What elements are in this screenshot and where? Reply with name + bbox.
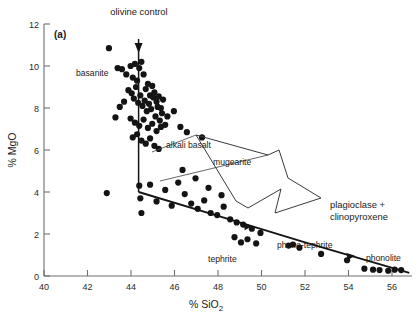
data-point <box>137 195 143 201</box>
data-point <box>201 197 207 203</box>
data-point <box>218 192 224 198</box>
data-point <box>117 104 123 110</box>
data-point <box>147 182 153 188</box>
scatter-points-group <box>104 45 405 274</box>
data-point <box>140 71 146 77</box>
data-point <box>162 187 168 193</box>
fractionation-block-arrow <box>196 135 321 213</box>
data-point <box>184 129 190 135</box>
data-point <box>171 108 177 114</box>
y-ticks-group: 12 10 8 6 4 2 0 <box>29 20 50 282</box>
data-point <box>119 66 125 72</box>
annotation-clinopyroxene-line2: clinopyroxene <box>330 211 388 222</box>
data-point <box>205 185 211 191</box>
data-point <box>149 121 155 127</box>
data-point <box>231 234 237 240</box>
x-tick-label-42: 42 <box>82 282 92 292</box>
x-tick-label-48: 48 <box>213 282 223 292</box>
data-point <box>175 179 181 185</box>
data-point <box>158 124 164 130</box>
data-point <box>159 110 165 116</box>
annotation-basanite: basanite <box>76 68 109 78</box>
data-point <box>164 113 170 119</box>
x-tick-label-56: 56 <box>387 282 397 292</box>
data-point <box>140 116 146 122</box>
data-point <box>361 266 367 272</box>
annotation-alkali-basalt: alkali basalt <box>166 140 212 150</box>
data-point <box>221 204 227 210</box>
x-tick-label-44: 44 <box>126 282 136 292</box>
axes-group <box>44 24 412 276</box>
x-tick-label-40: 40 <box>39 282 49 292</box>
data-point <box>238 239 244 245</box>
y-tick-label-0: 0 <box>34 272 39 282</box>
x-ticks-group: 40 42 44 46 48 50 52 54 56 <box>39 270 397 292</box>
annotation-plagioclase-line1: plagioclase + <box>330 199 386 210</box>
y-axis-title: % MgO <box>6 132 18 167</box>
annotation-tephrite: tephrite <box>208 254 237 264</box>
data-point <box>155 104 161 110</box>
data-point <box>147 135 153 141</box>
data-point <box>188 200 194 206</box>
data-point <box>138 210 144 216</box>
data-point <box>149 83 155 89</box>
x-tick-label-54: 54 <box>343 282 353 292</box>
annotations-group: olivine control basanite alkali basalt m… <box>76 6 401 264</box>
data-point <box>244 236 250 242</box>
x-tick-label-50: 50 <box>256 282 266 292</box>
data-point <box>179 167 185 173</box>
x-axis-title-subscript: 2 <box>219 304 224 312</box>
data-point <box>143 141 149 147</box>
y-tick-label-6: 6 <box>34 146 39 156</box>
data-point <box>153 198 159 204</box>
data-point <box>257 230 263 236</box>
data-point <box>385 268 391 274</box>
olivine-control-arrowhead <box>135 43 143 53</box>
data-point <box>376 267 382 273</box>
data-point <box>177 124 183 130</box>
data-point <box>106 45 112 51</box>
data-point <box>104 190 110 196</box>
data-point <box>370 267 376 273</box>
data-point <box>192 175 198 181</box>
y-tick-label-12: 12 <box>29 20 39 30</box>
data-point <box>150 94 156 100</box>
data-point <box>318 251 324 257</box>
y-tick-label-10: 10 <box>29 62 39 72</box>
data-point <box>160 97 166 103</box>
y-tick-label-8: 8 <box>34 104 39 114</box>
data-point <box>182 191 188 197</box>
annotation-mugearite: mugearite <box>213 157 251 167</box>
annotation-phonolite: phonolite <box>366 253 401 263</box>
data-point <box>123 71 129 77</box>
x-tick-label-46: 46 <box>169 282 179 292</box>
y-tick-label-4: 4 <box>34 188 39 198</box>
mgo-sio2-variation-diagram: 12 10 8 6 4 2 0 40 42 44 46 48 <box>0 0 420 312</box>
data-point <box>121 99 127 105</box>
annotation-olivine-control: olivine control <box>110 6 167 17</box>
x-tick-label-52: 52 <box>300 282 310 292</box>
x-axis-title-main: % SiO <box>189 298 219 310</box>
data-point <box>253 240 259 246</box>
data-point <box>148 106 154 112</box>
x-axis-title: % SiO2 <box>189 298 224 312</box>
data-point <box>112 114 118 120</box>
chart-canvas: 12 10 8 6 4 2 0 40 42 44 46 48 <box>0 0 420 312</box>
panel-label: (a) <box>54 29 66 40</box>
y-tick-label-2: 2 <box>34 230 39 240</box>
annotation-phono-tephrite: phono-tephrite <box>277 240 333 250</box>
data-point <box>157 118 163 124</box>
